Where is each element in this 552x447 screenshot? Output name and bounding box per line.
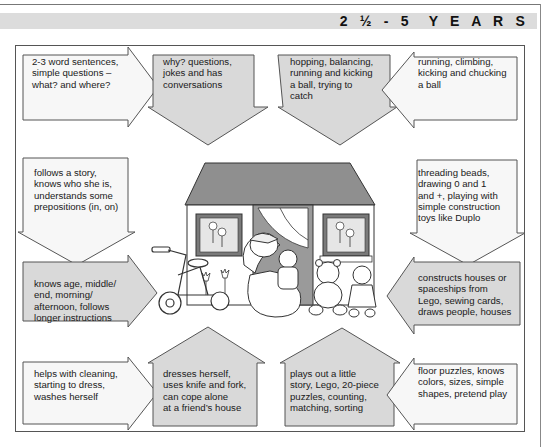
house-roof <box>185 163 375 205</box>
step-label-play-1: floor puzzles, knows colors, sizes, simp… <box>418 365 507 399</box>
step-label-fine-motor-1: threading beads, drawing 0 and 1 and +, … <box>418 167 500 223</box>
step-label-self-care-1: helps with cleaning, starting to dress, … <box>34 368 118 402</box>
playhouse-illustration <box>140 155 410 325</box>
step-label-understanding-1: follows a story, knows who she is, under… <box>34 167 118 212</box>
step-label-self-care-2: dresses herself, uses knife and fork, ca… <box>163 368 246 413</box>
step-label-speech-1: 2-3 word sentences, simple questions – w… <box>32 56 118 90</box>
step-label-motor-2: hopping, balancing, running and kicking … <box>290 56 373 101</box>
step-label-motor-1: running, climbing, kicking and chucking … <box>418 56 507 90</box>
step-label-understanding-2: knows age, middle/ end, morning/ afterno… <box>34 278 116 323</box>
step-label-speech-2: why? questions, jokes and has conversati… <box>163 56 232 90</box>
step-label-play-2: plays out a little story, Lego, 20-piece… <box>290 368 379 413</box>
step-label-fine-motor-2: constructs houses or spaceships from Leg… <box>418 272 511 317</box>
